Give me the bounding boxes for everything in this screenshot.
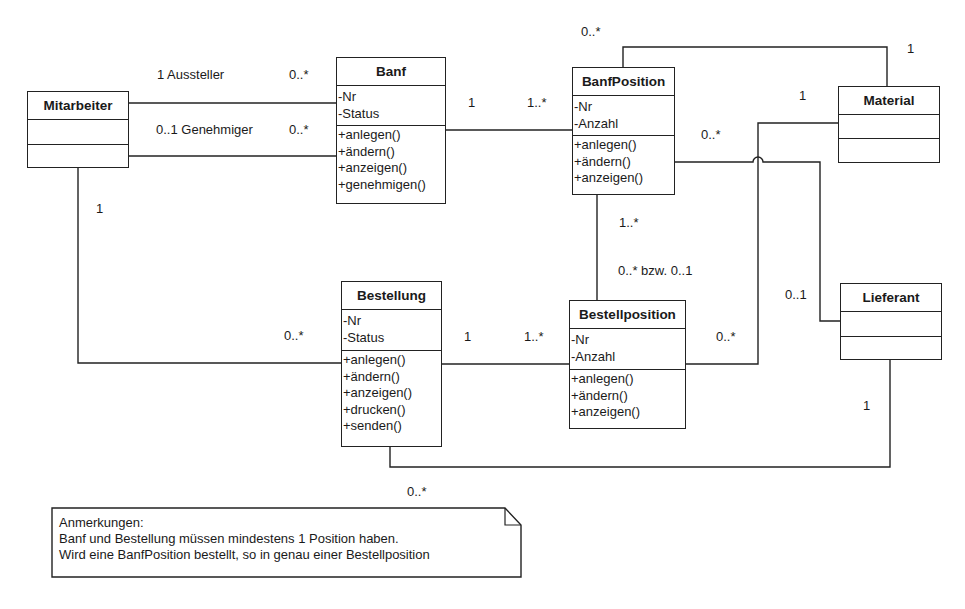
operation: +anlegen() bbox=[338, 127, 445, 144]
class-banf[interactable]: Banf -Nr -Status +anlegen() +ändern() +a… bbox=[336, 57, 446, 204]
operations-compartment bbox=[841, 337, 941, 338]
attributes-compartment bbox=[841, 312, 941, 337]
label-mit-best-from: 1 bbox=[96, 201, 103, 216]
class-banfposition[interactable]: BanfPosition -Nr -Anzahl +anlegen() +änd… bbox=[572, 67, 675, 195]
label-genehmiger: 0..1 Genehmiger bbox=[156, 122, 253, 137]
attribute: -Status bbox=[338, 105, 445, 122]
operation: +anlegen() bbox=[571, 371, 685, 388]
assoc-banfposition-lieferant bbox=[674, 157, 840, 321]
attribute: -Status bbox=[343, 329, 441, 346]
label-lief-best-to: 0..* bbox=[407, 484, 427, 499]
operations-compartment: +anlegen() +ändern() +anzeigen() bbox=[573, 136, 674, 187]
class-name: Mitarbeiter bbox=[28, 92, 128, 120]
note-text: Anmerkungen: Banf und Bestellung müssen … bbox=[59, 515, 430, 563]
operation: +ändern() bbox=[343, 369, 441, 386]
label-banf-bp-from: 1 bbox=[468, 95, 475, 110]
operations-compartment: +anlegen() +ändern() +anzeigen() +drucke… bbox=[342, 351, 441, 435]
class-name: BanfPosition bbox=[573, 68, 674, 96]
operations-compartment bbox=[839, 139, 939, 140]
operation: +ändern() bbox=[574, 154, 674, 171]
attributes-compartment bbox=[28, 120, 128, 145]
attributes-compartment bbox=[839, 115, 939, 139]
operation: +ändern() bbox=[571, 388, 685, 405]
label-bp-lief-from: 0..* bbox=[701, 127, 721, 142]
label-bp-mat-from: 0..* bbox=[581, 24, 601, 39]
attribute: -Nr bbox=[574, 98, 674, 115]
attributes-compartment: -Nr -Anzahl bbox=[570, 329, 685, 370]
attributes-compartment: -Nr -Status bbox=[337, 86, 445, 126]
label-best-bestpos-to: 1..* bbox=[524, 329, 544, 344]
attribute: -Anzahl bbox=[571, 348, 685, 365]
attributes-compartment: -Nr -Status bbox=[342, 310, 441, 351]
attribute: -Nr bbox=[338, 88, 445, 105]
label-lief-best-from: 1 bbox=[863, 398, 870, 413]
label-best-bestpos-from: 1 bbox=[464, 329, 471, 344]
operation: +anzeigen() bbox=[338, 160, 445, 177]
operations-compartment bbox=[28, 145, 128, 166]
label-bp-lief-to: 0..1 bbox=[785, 287, 807, 302]
label-bp-bestpos-from: 1..* bbox=[619, 215, 639, 230]
operation: +anzeigen() bbox=[571, 404, 685, 421]
class-name: Lieferant bbox=[841, 284, 941, 312]
operation: +anzeigen() bbox=[343, 385, 441, 402]
operations-compartment: +anlegen() +ändern() +anzeigen() +genehm… bbox=[337, 126, 445, 193]
label-genehmiger-mult: 0..* bbox=[289, 122, 309, 137]
operation: +drucken() bbox=[343, 402, 441, 419]
operations-compartment: +anlegen() +ändern() +anzeigen() bbox=[570, 370, 685, 421]
class-name: Bestellung bbox=[342, 282, 441, 310]
operation: +anzeigen() bbox=[574, 170, 674, 187]
label-bp-bestpos-to: 0..* bzw. 0..1 bbox=[618, 263, 692, 278]
label-bp-mat-to: 1 bbox=[907, 41, 914, 56]
class-name: Bestellposition bbox=[570, 301, 685, 329]
label-aussteller-mult: 0..* bbox=[289, 67, 309, 82]
label-mat-bestpos-to: 0..* bbox=[716, 329, 736, 344]
label-mat-bestpos-from: 1 bbox=[799, 88, 806, 103]
label-aussteller: 1 Aussteller bbox=[157, 67, 224, 82]
class-mitarbeiter[interactable]: Mitarbeiter bbox=[27, 91, 129, 168]
class-material[interactable]: Material bbox=[838, 86, 940, 163]
note-line-1: Banf und Bestellung müssen mindestens 1 … bbox=[59, 531, 430, 547]
operation: +anlegen() bbox=[574, 137, 674, 154]
class-bestellposition[interactable]: Bestellposition -Nr -Anzahl +anlegen() +… bbox=[569, 300, 686, 429]
attributes-compartment: -Nr -Anzahl bbox=[573, 96, 674, 136]
note-title: Anmerkungen: bbox=[59, 515, 430, 531]
label-mit-best-to: 0..* bbox=[284, 328, 304, 343]
operation: +genehmigen() bbox=[338, 177, 445, 194]
attribute: -Nr bbox=[343, 312, 441, 329]
attribute: -Nr bbox=[571, 331, 685, 348]
note-line-2: Wird eine BanfPosition bestellt, so in g… bbox=[59, 547, 430, 563]
class-lieferant[interactable]: Lieferant bbox=[840, 283, 942, 360]
attribute: -Anzahl bbox=[574, 115, 674, 132]
operation: +senden() bbox=[343, 418, 441, 435]
operation: +ändern() bbox=[338, 144, 445, 161]
class-name: Banf bbox=[337, 58, 445, 86]
operation: +anlegen() bbox=[343, 352, 441, 369]
label-banf-bp-to: 1..* bbox=[527, 95, 547, 110]
class-name: Material bbox=[839, 87, 939, 115]
class-bestellung[interactable]: Bestellung -Nr -Status +anlegen() +änder… bbox=[341, 281, 442, 447]
note-anmerkungen: Anmerkungen: Banf und Bestellung müssen … bbox=[51, 507, 521, 577]
